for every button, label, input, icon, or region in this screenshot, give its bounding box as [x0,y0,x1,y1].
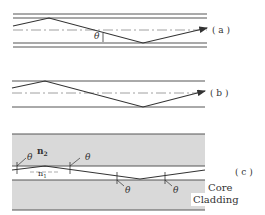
panel-a: θ ( a ) [13,14,230,47]
panel-b: ( b ) [12,81,229,107]
fiber-diagram: θ ( a ) ( b ) n2 θ θ n1 θ θ ( c ) [0,0,265,215]
label-a: ( a ) [212,25,230,35]
label-c: ( c ) [235,167,253,177]
cladding-label: Cladding [193,194,239,205]
core-label: Core [208,182,232,193]
theta-c1: θ [27,152,33,162]
ray-a [13,18,207,43]
label-b: ( b ) [210,88,229,98]
theta-label-a: θ [94,31,100,41]
theta-c2: θ [85,152,91,162]
ray-b [12,81,205,107]
theta-c3: θ [125,185,131,195]
theta-c4: θ [173,185,179,195]
